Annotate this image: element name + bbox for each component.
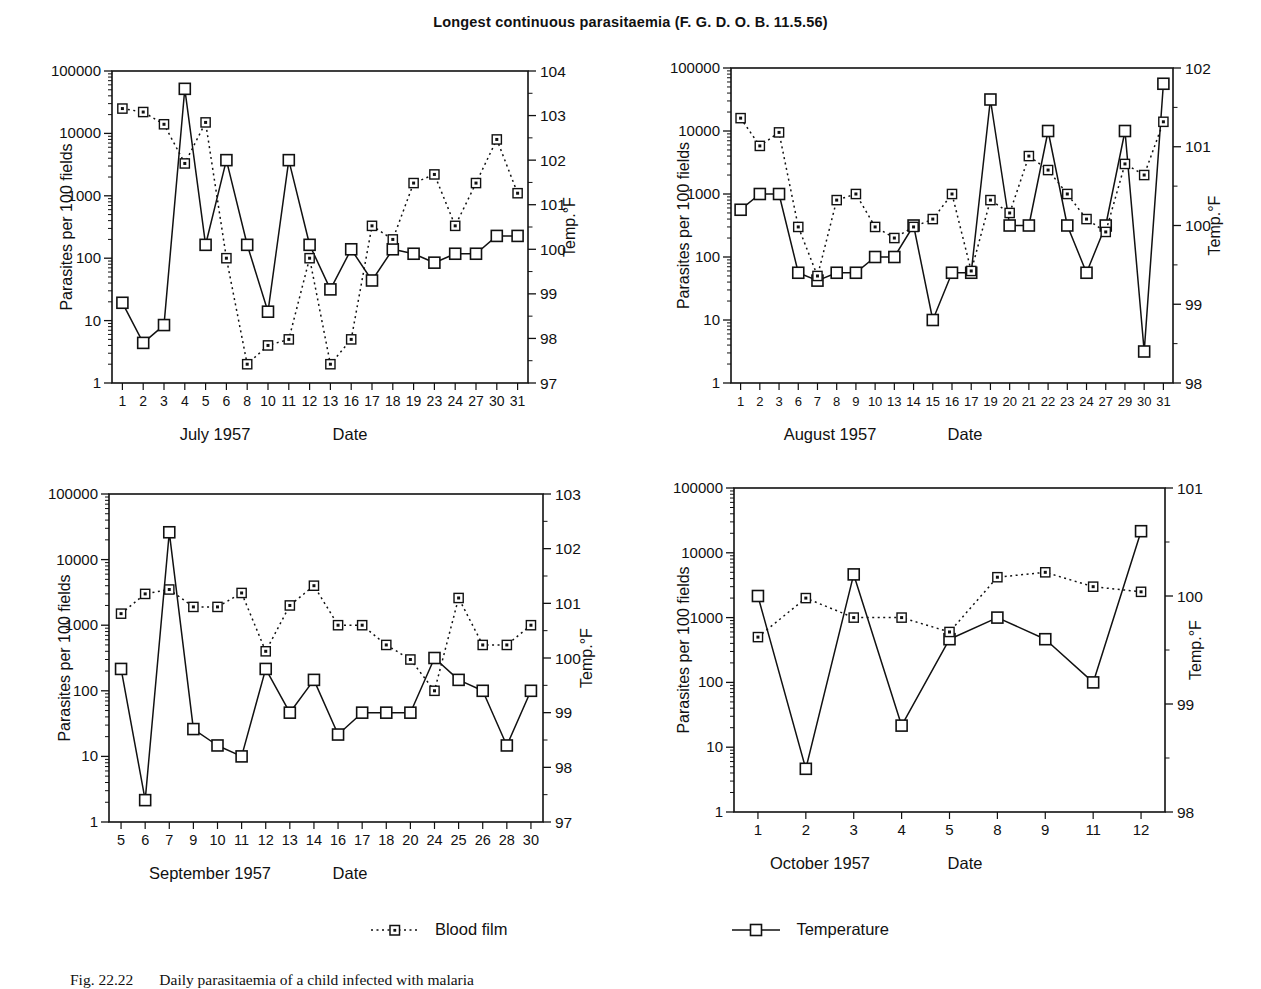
svg-text:2: 2 xyxy=(139,393,147,409)
svg-text:10: 10 xyxy=(260,393,276,409)
temperature-series xyxy=(735,78,1169,357)
svg-text:9: 9 xyxy=(189,832,197,848)
svg-text:30: 30 xyxy=(1137,394,1151,409)
svg-text:100000: 100000 xyxy=(51,62,101,79)
svg-text:98: 98 xyxy=(540,330,557,347)
svg-text:16: 16 xyxy=(945,394,959,409)
svg-text:17: 17 xyxy=(364,393,380,409)
svg-text:2: 2 xyxy=(802,821,810,838)
svg-text:14: 14 xyxy=(306,832,322,848)
svg-text:17: 17 xyxy=(964,394,978,409)
svg-text:19: 19 xyxy=(406,393,422,409)
blood-film-series xyxy=(116,581,535,695)
svg-text:13: 13 xyxy=(887,394,901,409)
chart-september: 1101001000100001000009798991001011021035… xyxy=(0,455,640,895)
svg-text:6: 6 xyxy=(795,394,802,409)
legend-item-blood-film: Blood film xyxy=(371,920,507,939)
svg-text:13: 13 xyxy=(282,832,298,848)
x-axis-title: Date xyxy=(948,425,983,443)
svg-text:102: 102 xyxy=(555,540,581,557)
svg-text:100: 100 xyxy=(695,248,720,265)
svg-text:26: 26 xyxy=(475,832,491,848)
svg-text:29: 29 xyxy=(1118,394,1132,409)
svg-text:28: 28 xyxy=(499,832,515,848)
svg-text:12: 12 xyxy=(302,393,318,409)
svg-text:1: 1 xyxy=(93,374,101,391)
svg-text:10000: 10000 xyxy=(681,544,723,561)
svg-text:11: 11 xyxy=(234,832,249,848)
svg-text:3: 3 xyxy=(850,821,858,838)
svg-text:7: 7 xyxy=(165,832,173,848)
svg-text:101: 101 xyxy=(1177,480,1203,497)
axes: 1101001000100001000009798991001011021031… xyxy=(51,62,566,409)
svg-text:15: 15 xyxy=(926,394,940,409)
svg-text:18: 18 xyxy=(385,393,401,409)
svg-text:100: 100 xyxy=(1177,588,1203,605)
svg-text:11: 11 xyxy=(1085,821,1101,838)
y-right-axis-title: Temp.°F xyxy=(1206,195,1223,255)
svg-text:100000: 100000 xyxy=(48,485,98,502)
svg-text:10: 10 xyxy=(209,832,225,848)
figure-title: Longest continuous parasitaemia (F. G. D… xyxy=(0,14,1261,30)
svg-text:6: 6 xyxy=(141,832,149,848)
temperature-series xyxy=(117,83,523,348)
svg-text:31: 31 xyxy=(1156,394,1170,409)
svg-text:11: 11 xyxy=(282,393,297,409)
svg-text:10: 10 xyxy=(703,311,720,328)
svg-text:9: 9 xyxy=(1041,821,1049,838)
svg-text:23: 23 xyxy=(1060,394,1074,409)
temperature-swatch-icon xyxy=(732,922,780,938)
legend-item-temperature: Temperature xyxy=(732,920,889,939)
svg-text:20: 20 xyxy=(1002,394,1016,409)
svg-text:99: 99 xyxy=(540,285,557,302)
chart-august: 1101001000100001000009899100101102123678… xyxy=(645,40,1261,465)
svg-text:7: 7 xyxy=(814,394,821,409)
svg-text:103: 103 xyxy=(555,486,581,503)
blood-film-series xyxy=(118,104,522,369)
svg-text:31: 31 xyxy=(510,393,526,409)
svg-text:5: 5 xyxy=(202,393,210,409)
svg-text:4: 4 xyxy=(897,821,905,838)
temperature-series xyxy=(752,526,1146,775)
month-label: September 1957 xyxy=(149,864,271,882)
svg-text:30: 30 xyxy=(523,832,539,848)
svg-text:98: 98 xyxy=(1185,375,1202,392)
x-axis-title: Date xyxy=(333,425,368,443)
svg-text:3: 3 xyxy=(775,394,782,409)
svg-text:23: 23 xyxy=(427,393,443,409)
svg-text:24: 24 xyxy=(1079,394,1093,409)
month-label: July 1957 xyxy=(180,425,251,443)
svg-text:10: 10 xyxy=(81,747,98,764)
svg-text:1: 1 xyxy=(90,813,98,830)
svg-text:30: 30 xyxy=(489,393,505,409)
x-axis-title: Date xyxy=(333,864,368,882)
blood-film-series xyxy=(736,114,1168,281)
svg-text:100000: 100000 xyxy=(673,479,723,496)
svg-text:103: 103 xyxy=(540,107,566,124)
svg-text:6: 6 xyxy=(223,393,231,409)
chart-legend: Blood film Temperature xyxy=(60,920,1200,939)
caption-fig-number: Fig. 22.22 xyxy=(70,971,133,988)
svg-text:10: 10 xyxy=(868,394,882,409)
svg-text:100: 100 xyxy=(698,673,723,690)
svg-text:8: 8 xyxy=(833,394,840,409)
svg-text:99: 99 xyxy=(555,704,572,721)
svg-text:1000: 1000 xyxy=(690,609,723,626)
svg-text:24: 24 xyxy=(426,832,442,848)
svg-text:3: 3 xyxy=(160,393,168,409)
svg-text:27: 27 xyxy=(468,393,484,409)
svg-text:1: 1 xyxy=(119,393,127,409)
svg-text:10: 10 xyxy=(706,738,723,755)
svg-text:100: 100 xyxy=(76,249,101,266)
svg-text:1: 1 xyxy=(712,374,720,391)
svg-text:16: 16 xyxy=(330,832,346,848)
svg-text:25: 25 xyxy=(451,832,467,848)
x-axis-title: Date xyxy=(948,854,983,872)
chart-october: 1101001000100001000009899100101123458911… xyxy=(645,455,1261,895)
svg-text:104: 104 xyxy=(540,63,566,80)
svg-text:99: 99 xyxy=(1185,296,1202,313)
svg-text:100000: 100000 xyxy=(670,59,720,76)
month-label: October 1957 xyxy=(770,854,870,872)
svg-text:18: 18 xyxy=(378,832,394,848)
